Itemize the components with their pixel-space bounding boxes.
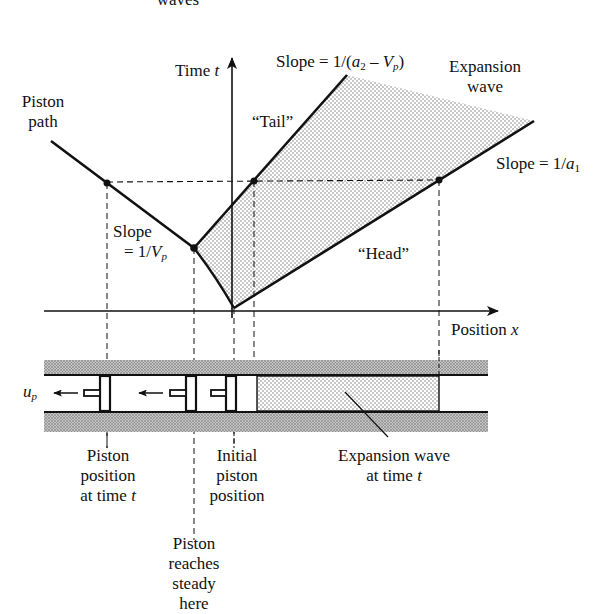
- callout-piston-position-line3: at time: [80, 486, 127, 505]
- slope-tail-v: V: [383, 52, 393, 71]
- head-text: “Head”: [358, 244, 409, 263]
- slope-head-prefix: Slope = 1/: [496, 154, 566, 173]
- callout-steady-line2: reaches: [164, 554, 224, 574]
- callout-expansion-var: t: [417, 466, 422, 485]
- callout-steady-line4: here: [164, 594, 224, 614]
- callout-steady: Piston reaches steady here: [164, 534, 224, 614]
- position-axis-text: Position: [451, 320, 507, 339]
- expansion-wave-label: Expansion wave: [435, 57, 535, 97]
- callout-piston-position-line1: Piston: [66, 446, 150, 466]
- callout-initial-piston: Initial piston position: [202, 446, 272, 506]
- up-var: u: [23, 382, 32, 401]
- tail-label: “Tail”: [252, 112, 293, 132]
- callout-expansion-line1: Expansion wave: [330, 446, 458, 466]
- up-sub: p: [32, 390, 38, 402]
- slope-piston-v: V: [151, 242, 161, 261]
- slope-tail-suffix: ): [399, 52, 405, 71]
- slope-tail-label: Slope = 1/(a2 – Vp): [276, 52, 404, 72]
- steady-point: [190, 244, 198, 252]
- up-label: up: [23, 382, 37, 402]
- expansion-wave-line1: Expansion: [435, 57, 535, 77]
- piston-at-time-t: [54, 376, 110, 411]
- callout-piston-position-line2: position: [66, 466, 150, 486]
- time-axis-text: Time: [175, 61, 210, 80]
- slope-piston-label: Slope = 1/Vp: [113, 222, 167, 262]
- position-var: x: [511, 320, 519, 339]
- piston-point-at-t: [104, 180, 111, 187]
- callout-expansion-line2: at time: [366, 466, 413, 485]
- callout-piston-position-var: t: [131, 486, 136, 505]
- top-cut-text: waves: [157, 0, 199, 9]
- tube-expansion-region: [257, 376, 439, 411]
- callout-initial-line3: position: [202, 486, 272, 506]
- time-var: t: [215, 61, 220, 80]
- time-axis-label: Time t: [175, 61, 219, 81]
- piston-path-line1: Piston: [12, 92, 74, 112]
- slope-tail-a: a: [352, 52, 361, 71]
- slope-piston-v-sub: p: [161, 250, 167, 262]
- tube-bottom-wall: [44, 412, 488, 432]
- piston-path-label: Piston path: [12, 92, 74, 132]
- slope-head-label: Slope = 1/a1: [496, 154, 580, 174]
- slope-tail-mid: –: [366, 52, 383, 71]
- slope-piston-line1: Slope: [113, 222, 167, 242]
- expansion-wave-line2: wave: [435, 77, 535, 97]
- slope-head-a: a: [566, 154, 575, 173]
- callout-steady-line1: Piston: [164, 534, 224, 554]
- slope-head-a-sub: 1: [575, 162, 581, 174]
- tail-point-at-t: [251, 178, 258, 185]
- piston-initial: [211, 376, 236, 411]
- top-cut-label: waves: [148, 0, 208, 10]
- callout-piston-position: Piston position at time t: [66, 446, 150, 506]
- piston-at-steady: [139, 376, 196, 411]
- piston-path-line2: path: [12, 112, 74, 132]
- head-point-at-t: [436, 177, 443, 184]
- tube-top-wall: [44, 360, 488, 375]
- slope-tail-prefix: Slope = 1/(: [276, 52, 352, 71]
- callout-initial-line1: Initial: [202, 446, 272, 466]
- callout-steady-line3: steady: [164, 574, 224, 594]
- callout-initial-line2: piston: [202, 466, 272, 486]
- slope-piston-prefix: = 1/: [124, 242, 151, 261]
- head-label: “Head”: [358, 244, 409, 264]
- tail-text: “Tail”: [252, 112, 293, 131]
- callout-expansion-wave-time: Expansion wave at time t: [330, 446, 458, 486]
- position-axis-label: Position x: [451, 320, 519, 340]
